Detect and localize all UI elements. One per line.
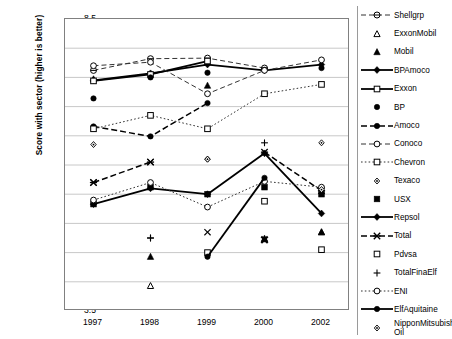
y-axis-title: Score with sector (higher is better) [34,0,44,170]
legend-item[interactable]: Chevron [360,153,451,171]
legend-symbol-circle-filled-icon [360,300,394,318]
legend-symbol-square-open-icon [360,153,394,171]
legend-label: ENI [394,287,408,296]
legend-item[interactable]: USX [360,190,451,208]
legend-label: TotalFinaElf [394,268,437,277]
legend-symbol-circle-dot-icon [360,6,394,24]
legend-label: Conoco [394,139,422,148]
legend-symbol-diamond-filled-icon [360,208,394,226]
legend-label: Exxon [394,84,417,93]
x-axis-tick: 2002 [291,317,351,327]
legend-label: USX [394,195,411,204]
x-axis-tick: 1997 [63,317,123,327]
legend-label: Repsol [394,213,420,222]
legend-label: Texaco [394,176,420,185]
legend-item[interactable]: Texaco [360,172,451,190]
legend-item[interactable]: TotalFinaElf [360,263,451,281]
legend-symbol-circle-filled-icon [360,117,394,135]
legend-item[interactable]: BP [360,98,451,116]
legend-symbol-diamond-small-icon [360,172,394,190]
legend-item[interactable]: Conoco [360,135,451,153]
legend-label: ElfAquitaine [394,305,438,314]
legend-item[interactable]: BPAmoco [360,61,451,79]
legend-label: ExxonMobil [394,29,436,38]
legend-item[interactable]: Shellgrp [360,6,451,24]
legend-label: BP [394,103,405,112]
legend-item[interactable]: Mobil [360,43,451,61]
legend-item[interactable]: ElfAquitaine [360,300,451,318]
series-amoco [91,100,210,139]
series-exxonmobil [147,283,153,289]
series-elfaquitaine [205,175,267,259]
x-axis-tick: 1999 [177,317,237,327]
legend-label: Total [394,231,411,240]
legend-symbol-square-open-icon [360,245,394,263]
legend-item[interactable]: Total [360,227,451,245]
legend-item[interactable]: Repsol [360,208,451,226]
chart-container: Score with sector (higher is better) 8.5… [0,0,452,339]
legend-label: NipponMitsubishi Oil [394,319,452,337]
series-chevron [91,82,325,132]
legend-label: BPAmoco [394,66,430,75]
legend-symbol-diamond-small-icon [360,319,394,337]
series-arco [90,159,210,235]
legend-item[interactable]: Amoco [360,116,451,134]
legend-symbol-square-filled-icon [360,190,394,208]
legend-item[interactable]: NipponMitsubishi Oil [360,319,451,337]
legend-item[interactable]: Exxon [360,80,451,98]
legend-symbol-circle-filled-icon [360,98,394,116]
legend-item[interactable]: ExxonMobil [360,24,451,42]
legend-symbol-square-open-icon [360,80,394,98]
legend-item[interactable]: Pdvsa [360,245,451,263]
legend-label: Amoco [394,121,419,130]
legend-item[interactable]: ENI [360,282,451,300]
data-series [65,19,348,309]
legend-symbol-plus-icon [360,264,394,282]
legend: ShellgrpExxonMobilMobilBPAmocoExxonBPAmo… [357,6,451,335]
legend-symbol-triangle-filled-icon [360,43,394,61]
x-axis-tick: 2000 [234,317,294,327]
legend-label: Shellgrp [394,11,424,20]
legend-symbol-triangle-open-icon [360,25,394,43]
legend-symbol-star-dash-icon [360,227,394,245]
legend-label: Mobil [394,47,414,56]
series-pdvsa [205,198,325,255]
series-nipponoil [147,235,154,242]
legend-symbol-circle-open-icon [360,282,394,300]
legend-symbol-diamond-filled-icon [360,61,394,79]
legend-label: Chevron [394,158,425,167]
plot-area [64,18,349,310]
x-axis-tick: 1998 [120,317,180,327]
legend-label: Pdvsa [394,250,417,259]
legend-symbol-circle-open-icon [360,135,394,153]
series-shellgrp [91,55,268,73]
series-sk [261,229,324,242]
